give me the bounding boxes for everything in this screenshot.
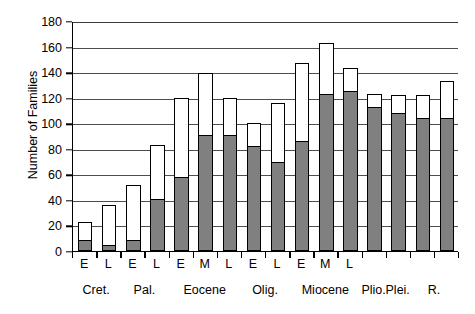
bar-9 <box>295 63 309 251</box>
x-sub-label-7: E <box>249 257 257 271</box>
bar-segment-lower-5 <box>198 135 212 251</box>
bar-segment-lower-15 <box>440 118 454 251</box>
x-sub-label-1: L <box>105 257 112 271</box>
y-tick-label-100: 100 <box>41 117 62 131</box>
bar-segment-lower-7 <box>247 146 261 251</box>
y-tick-label-180: 180 <box>41 15 62 29</box>
y-tick-label-160: 160 <box>41 41 62 55</box>
bar-segment-lower-0 <box>78 240 92 252</box>
bar-12 <box>367 94 381 251</box>
x-axis-sub-labels: ELELEMLELEML <box>72 257 458 275</box>
x-group-label-1: Pal. <box>134 283 156 297</box>
x-sub-label-11: L <box>346 257 353 271</box>
x-group-label-3: Olig. <box>252 283 278 297</box>
x-sub-label-6: L <box>225 257 232 271</box>
y-axis-tick-labels: 020406080100120140160180 <box>0 0 72 252</box>
x-group-label-4: Miocene <box>302 283 349 297</box>
x-axis-group-labels: Cret.Pal.EoceneOlig.MiocenePlio.Plei.R. <box>72 283 458 303</box>
x-sub-label-8: L <box>274 257 281 271</box>
x-group-label-7: R. <box>428 283 441 297</box>
bar-segment-lower-2 <box>126 240 140 252</box>
bar-segment-lower-9 <box>295 141 309 251</box>
bar-3 <box>150 145 164 251</box>
y-tick-label-140: 140 <box>41 66 62 80</box>
bar-0 <box>78 222 92 251</box>
x-group-label-2: Eocene <box>183 283 225 297</box>
x-group-label-5: Plio. <box>361 283 385 297</box>
y-tick-label-20: 20 <box>48 219 62 233</box>
bar-2 <box>126 185 140 251</box>
bar-series <box>73 22 458 251</box>
x-sub-label-2: E <box>128 257 136 271</box>
y-tick-label-80: 80 <box>48 143 62 157</box>
bar-segment-lower-14 <box>416 118 430 251</box>
plot-area <box>72 22 458 252</box>
y-tick-label-120: 120 <box>41 92 62 106</box>
bar-segment-lower-12 <box>367 107 381 251</box>
x-sub-label-5: M <box>199 257 209 271</box>
bar-5 <box>198 73 212 251</box>
x-group-label-0: Cret. <box>83 283 110 297</box>
y-tick-label-60: 60 <box>48 168 62 182</box>
bar-14 <box>416 95 430 251</box>
bar-segment-lower-13 <box>391 113 405 251</box>
x-sub-label-3: L <box>153 257 160 271</box>
bar-segment-lower-4 <box>174 177 188 251</box>
bar-7 <box>247 123 261 251</box>
bar-15 <box>440 81 454 251</box>
x-sub-label-9: E <box>297 257 305 271</box>
y-tick-label-40: 40 <box>48 194 62 208</box>
bar-segment-lower-6 <box>223 135 237 251</box>
x-sub-label-4: E <box>176 257 184 271</box>
x-sub-label-0: E <box>80 257 88 271</box>
bar-13 <box>391 95 405 251</box>
chart-container: Number of Families 020406080100120140160… <box>0 0 475 314</box>
bar-4 <box>174 98 188 251</box>
x-sub-label-10: M <box>320 257 330 271</box>
bar-1 <box>102 205 116 251</box>
y-tick-label-0: 0 <box>55 245 62 259</box>
bar-8 <box>271 103 285 251</box>
bar-11 <box>343 68 357 251</box>
x-group-label-6: Plei. <box>386 283 410 297</box>
bar-segment-lower-8 <box>271 162 285 251</box>
bar-segment-lower-10 <box>319 94 333 251</box>
bar-6 <box>223 98 237 251</box>
x-tick-16 <box>458 252 459 258</box>
bar-segment-lower-11 <box>343 91 357 251</box>
bar-10 <box>319 43 333 251</box>
bar-segment-lower-3 <box>150 199 164 251</box>
bar-segment-lower-1 <box>102 245 116 251</box>
